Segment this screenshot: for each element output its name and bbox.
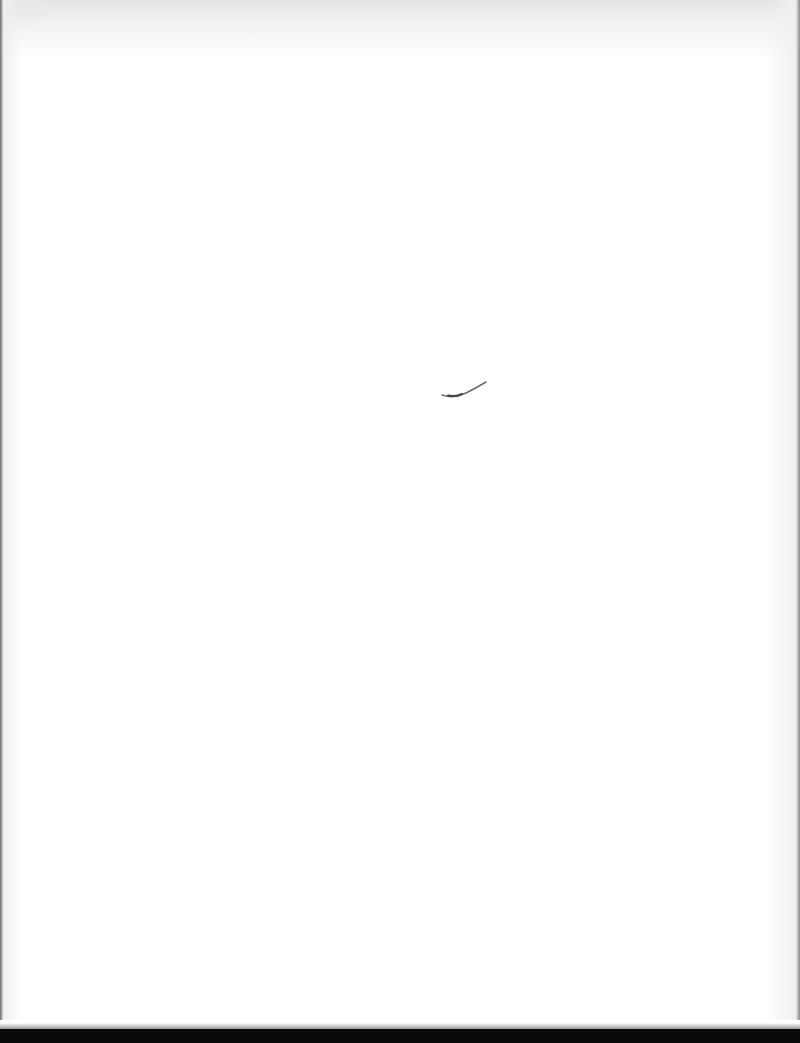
right-edge-shading [766, 0, 796, 1020]
scanned-page [0, 0, 800, 1043]
top-edge-shading [0, 0, 800, 60]
right-page-edge [796, 0, 800, 1020]
scanner-bottom-band [0, 1029, 800, 1043]
left-edge-shading [3, 0, 21, 1020]
pencil-stroke-mark [440, 380, 490, 404]
